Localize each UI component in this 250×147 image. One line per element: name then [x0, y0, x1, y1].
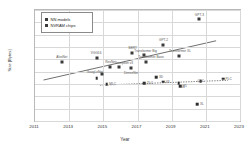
data-point-label: Inception v3: [116, 61, 133, 65]
data-point: [198, 18, 201, 21]
y-axis-title: Size [Bytes]: [7, 31, 12, 91]
data-point-label: GPT-3: [195, 13, 204, 17]
gridline-vertical: [172, 10, 173, 121]
legend-item-nvram-chips: NVRAM chips: [45, 23, 89, 28]
x-axis-tick-label: 2017: [122, 124, 152, 129]
gridline-horizontal: [35, 121, 240, 122]
data-point-label: GoogLeNet: [87, 70, 103, 74]
data-point-label: Transformer Big: [134, 49, 157, 53]
data-point: [145, 60, 148, 63]
gridline-vertical: [240, 10, 241, 121]
data-point: [162, 43, 165, 46]
data-point-label: 3D: [159, 75, 163, 79]
data-point-label: ResNet: [105, 60, 116, 64]
data-point: [177, 54, 180, 57]
data-point: [117, 65, 120, 68]
legend-item-label: NN models: [51, 17, 71, 22]
data-point-label: AlexNet: [56, 55, 67, 59]
data-point: [95, 77, 98, 80]
legend-item-nn-models: NN models: [45, 17, 89, 22]
x-axis-tick-label: 2011: [19, 124, 49, 129]
chart-container: Size [Bytes] AlexNetVGG16GoogLeNetResNet…: [0, 0, 250, 147]
data-point: [95, 56, 98, 59]
x-axis-tick-label: 2021: [190, 124, 220, 129]
gridline-vertical: [206, 10, 207, 121]
data-point: [196, 103, 199, 106]
data-point-label: TLC: [147, 81, 153, 85]
data-point: [155, 76, 158, 79]
data-point-label: V3: [166, 80, 170, 84]
data-point: [129, 66, 132, 69]
x-axis-tick-label: 2019: [156, 124, 186, 129]
data-point: [61, 60, 64, 63]
chart-legend: NN models NVRAM chips: [41, 12, 93, 33]
data-point-label: V5: [183, 84, 187, 88]
data-point-label: GPT-2: [159, 38, 168, 42]
data-point-label: Transformer Base: [138, 55, 163, 59]
data-point-label: PLC: [226, 77, 232, 81]
x-axis-title: Year: [0, 137, 250, 142]
gridline-vertical: [103, 10, 104, 121]
data-point-label: MLC: [109, 82, 116, 86]
data-point-label: XL: [200, 102, 204, 106]
data-point-label: Transformer XL: [169, 49, 191, 53]
data-point-label: DenseNet: [124, 71, 138, 75]
data-point: [179, 85, 182, 88]
x-axis-tick-label: 2015: [87, 124, 117, 129]
data-point: [109, 65, 112, 68]
data-point: [105, 83, 108, 86]
legend-marker-icon: [45, 24, 48, 27]
data-point: [143, 82, 146, 85]
data-point: [162, 81, 165, 84]
x-axis-tick-label: 2013: [53, 124, 83, 129]
legend-item-label: NVRAM chips: [51, 23, 76, 28]
x-axis-tick-label: 2023: [224, 124, 250, 129]
gridline-vertical: [138, 10, 139, 121]
data-point-label: VGG16: [91, 51, 102, 55]
data-point: [222, 78, 225, 81]
legend-marker-icon: [45, 18, 48, 21]
data-point-label: QLC: [197, 79, 204, 83]
